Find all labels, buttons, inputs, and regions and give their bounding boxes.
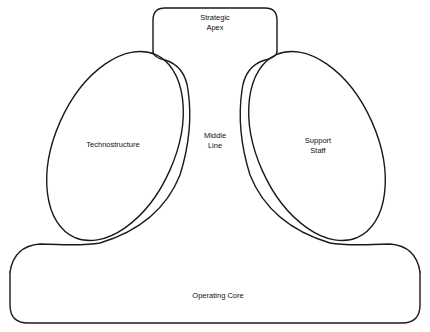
middle-line-label: Middle Line [204,131,226,151]
operating-core-label: Operating Core [192,291,243,301]
operating-core-line-1: Operating Core [192,291,243,301]
technostructure-line-1: Technostructure [86,140,139,150]
strategic-apex-line-1: Strategic [200,13,230,23]
support-staff-line-2: Staff [305,146,331,156]
org-structure-diagram [0,0,430,332]
support-staff-line-1: Support [305,136,331,146]
middle-line-line-1: Middle [204,131,226,141]
strategic-apex-line-2: Apex [200,23,230,33]
strategic-apex-label: Strategic Apex [200,13,230,33]
technostructure-label: Technostructure [86,140,139,150]
middle-line-line-2: Line [204,141,226,151]
support-staff-label: Support Staff [305,136,331,156]
